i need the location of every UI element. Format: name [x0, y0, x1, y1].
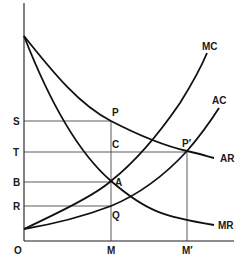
origin-label: O	[14, 245, 22, 256]
y-label-t: T	[13, 147, 19, 158]
mc-label: MC	[202, 41, 218, 52]
ar-label: AR	[220, 153, 235, 164]
y-label-b: B	[13, 177, 20, 188]
ac-label: AC	[212, 95, 226, 106]
y-label-r: R	[13, 201, 21, 212]
point-p-prime: P′	[182, 138, 192, 149]
point-q: Q	[112, 210, 120, 221]
y-label-s: S	[13, 116, 20, 127]
point-a: A	[115, 177, 122, 188]
cost-revenue-diagram: S T B R O M M′ MC AC AR MR P C A Q P′	[0, 0, 247, 267]
point-p: P	[112, 107, 119, 118]
mr-curve	[24, 36, 214, 225]
point-c: C	[112, 139, 119, 150]
mr-label: MR	[218, 220, 234, 231]
x-label-m-prime: M′	[182, 245, 193, 256]
x-label-m: M	[107, 245, 115, 256]
